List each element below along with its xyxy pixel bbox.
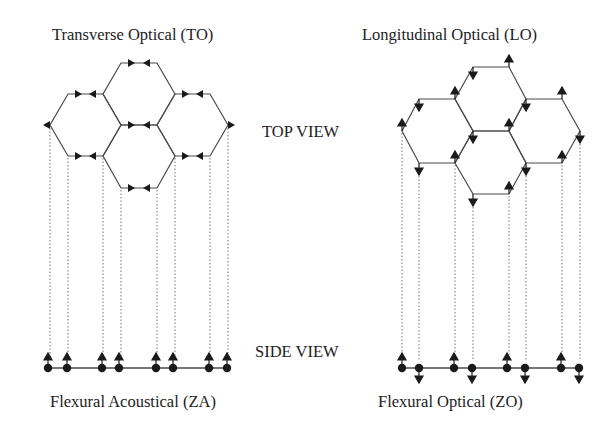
lo-projection-lines bbox=[402, 133, 580, 360]
arrow-down-icon bbox=[415, 67, 584, 206]
to-projection-lines bbox=[50, 128, 228, 360]
phonon-mode-diagram bbox=[0, 0, 611, 431]
to-lattice bbox=[50, 63, 228, 188]
lo-lattice bbox=[402, 67, 580, 194]
arrow-up-icon bbox=[44, 353, 231, 364]
arrow-up-icon bbox=[398, 55, 566, 194]
arrow-up-icon bbox=[398, 353, 565, 364]
arrow-down-icon bbox=[415, 372, 583, 383]
zo-side-view bbox=[398, 353, 583, 383]
za-side-view bbox=[44, 353, 231, 372]
